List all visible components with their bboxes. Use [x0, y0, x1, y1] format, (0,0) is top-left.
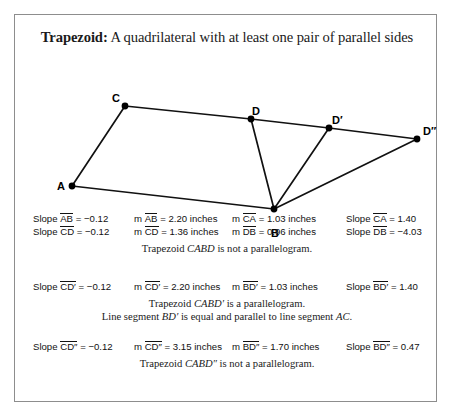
measurement-prefix: m: [134, 341, 145, 352]
title-definition: A quadrilateral with at least one pair o…: [108, 29, 414, 45]
measurement-prefix: Slope: [346, 226, 373, 237]
measurement-cell: Slope CD″ = −0.12: [33, 341, 113, 352]
measurement-cell: Slope BD′ = 1.40: [346, 281, 418, 292]
diagram-canvas: [16, 53, 437, 233]
measurement-value: = 1.40: [388, 281, 418, 292]
segment-notation: BD″: [373, 341, 390, 352]
title-term: Trapezoid:: [41, 29, 108, 45]
measurement-value: = 1.70 inches: [259, 341, 319, 352]
note-text: is not a parallelogram.: [217, 358, 314, 369]
note-text: is a parallelogram.: [224, 298, 305, 309]
vertex-label-Dprime: D′: [332, 115, 343, 126]
measurement-row: Slope AB = −0.12m AB = 2.20 inchesm CA =…: [15, 213, 436, 226]
vertex-point: [122, 103, 129, 110]
measurement-prefix: m: [134, 281, 145, 292]
measurement-cell: m DB = 0.96 inches: [232, 226, 316, 237]
vertex-label-A: A: [57, 181, 65, 192]
segment-BD″: [274, 139, 417, 209]
segment-notation: CD: [60, 226, 74, 237]
segment-notation: CD″: [60, 341, 77, 352]
card-frame: Trapezoid: A quadrilateral with at least…: [14, 14, 437, 402]
measurement-cell: Slope BD″ = 0.47: [346, 341, 420, 352]
note-text: Trapezoid: [142, 243, 187, 254]
measurement-block: Slope AB = −0.12m AB = 2.20 inchesm CA =…: [15, 213, 436, 239]
measurement-prefix: m: [232, 226, 243, 237]
measurement-prefix: Slope: [33, 281, 60, 292]
measurement-prefix: m: [134, 213, 145, 224]
segment-D′D″: [329, 128, 417, 139]
segment-notation: CD′: [60, 281, 76, 292]
measurement-prefix: Slope: [346, 281, 373, 292]
segment-notation: BD′: [243, 281, 258, 292]
measurement-value: = 1.03 inches: [256, 213, 316, 224]
note-emphasis: CABD″: [185, 358, 217, 369]
note-text: Trapezoid: [149, 298, 194, 309]
measurement-cell: m CA = 1.03 inches: [232, 213, 316, 224]
segment-notation: BD″: [243, 341, 260, 352]
measurement-block: Slope CD″ = −0.12m CD″ = 3.15 inchesm BD…: [15, 341, 436, 354]
measurement-prefix: Slope: [346, 213, 373, 224]
measurement-value: = 1.36 inches: [159, 226, 219, 237]
vertex-point: [271, 206, 278, 213]
vertex-point: [69, 183, 76, 190]
segment-notation: CD″: [145, 341, 162, 352]
measurement-cell: m BD″ = 1.70 inches: [232, 341, 319, 352]
segment-BD′: [274, 128, 329, 209]
measurement-row: Slope CD = −0.12m CD = 1.36 inchesm DB =…: [15, 226, 436, 239]
measurement-prefix: Slope: [346, 341, 373, 352]
segment-notation: CD: [145, 226, 159, 237]
measurement-row: Slope CD″ = −0.12m CD″ = 3.15 inchesm BD…: [15, 341, 436, 354]
conclusion-note: Trapezoid CABD′ is a parallelogram.: [33, 298, 421, 310]
segment-notation: AB: [60, 213, 73, 224]
vertex-point: [414, 136, 421, 143]
note-emphasis: CABD: [187, 243, 215, 254]
segment-notation: AB: [145, 213, 158, 224]
note-text: is not a parallelogram.: [215, 243, 312, 254]
segment-notation: DB: [243, 226, 256, 237]
vertex-label-D: D: [252, 106, 260, 117]
measurement-cell: Slope CD′ = −0.12: [33, 281, 111, 292]
measurement-value: = 2.20 inches: [160, 281, 220, 292]
segment-notation: CD′: [145, 281, 161, 292]
measurement-prefix: m: [134, 226, 145, 237]
measurement-value: = −4.03: [387, 226, 422, 237]
segment-notation: CA: [243, 213, 256, 224]
measurement-cell: m CD″ = 3.15 inches: [134, 341, 222, 352]
measurement-value: = 1.03 inches: [258, 281, 318, 292]
measurement-value: = 0.96 inches: [256, 226, 316, 237]
measurement-prefix: m: [232, 341, 243, 352]
segment-AB: [72, 186, 274, 209]
trapezoid-diagram: ABCDD′D″: [16, 53, 437, 233]
note-text: is equal and parallel to line segment: [178, 311, 336, 322]
measurement-cell: Slope DB = −4.03: [346, 226, 422, 237]
segment-notation: BD′: [373, 281, 388, 292]
measurement-cell: m CD = 1.36 inches: [134, 226, 219, 237]
conclusion-note: Line segment BD′ is equal and parallel t…: [33, 311, 421, 323]
measurement-block: Slope CD′ = −0.12m CD′ = 2.20 inchesm BD…: [15, 281, 436, 294]
measurement-value: = −0.12: [76, 281, 111, 292]
measurement-cell: Slope CD = −0.12: [33, 226, 109, 237]
measurement-row: Slope CD′ = −0.12m CD′ = 2.20 inchesm BD…: [15, 281, 436, 294]
note-text: Trapezoid: [140, 358, 185, 369]
conclusion-note: Trapezoid CABD is not a parallelogram.: [33, 243, 421, 255]
measurement-value: = −0.12: [73, 213, 108, 224]
measurement-prefix: Slope: [33, 226, 60, 237]
figure-card-page: Trapezoid: A quadrilateral with at least…: [0, 0, 453, 418]
measurement-value: = 1.40: [387, 213, 417, 224]
measurement-cell: Slope AB = −0.12: [33, 213, 108, 224]
note-emphasis: BD′: [162, 311, 178, 322]
segment-AC: [72, 106, 125, 186]
note-text: Line segment: [102, 311, 162, 322]
note-emphasis: AC: [336, 311, 350, 322]
segment-CD: [125, 106, 251, 119]
vertex-label-C: C: [112, 93, 120, 104]
segment-BD: [251, 119, 274, 209]
measurement-value: = 0.47: [390, 341, 420, 352]
measurement-cell: Slope CA = 1.40: [346, 213, 416, 224]
measurement-cell: m AB = 2.20 inches: [134, 213, 218, 224]
page-title: Trapezoid: A quadrilateral with at least…: [33, 29, 421, 46]
measurement-value: = −0.12: [77, 341, 112, 352]
note-text: .: [350, 311, 353, 322]
measurement-cell: m CD′ = 2.20 inches: [134, 281, 220, 292]
segment-DD′: [251, 119, 329, 128]
